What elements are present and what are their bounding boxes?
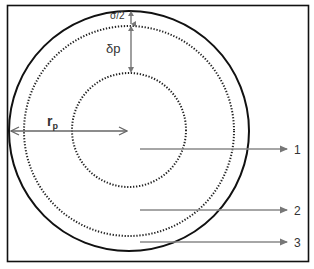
radius-label: rp [47, 113, 58, 131]
trajectory-label-3: 3 [294, 236, 301, 250]
trajectory-label-2: 2 [294, 204, 301, 218]
diagram-canvas: σ/2 δp rp 1 2 3 [0, 0, 314, 269]
sigma-half-label: σ/2 [110, 10, 125, 21]
trajectory-label-1: 1 [294, 143, 301, 157]
inner-dotted-circle [72, 73, 186, 187]
delta-p-label: δp [106, 41, 120, 56]
